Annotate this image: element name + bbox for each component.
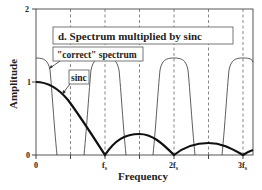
x-tick-label-3fs: 3fs bbox=[238, 161, 248, 171]
y-axis-ticks bbox=[32, 9, 36, 155]
y-axis-title: Amplitude bbox=[7, 59, 19, 109]
y-tick-label-1: 1 bbox=[27, 78, 31, 87]
correct-spectrum-annotation: "correct" spectrum bbox=[49, 47, 143, 69]
correct-spectrum-series bbox=[36, 58, 253, 155]
x-axis-title: Frequency bbox=[118, 170, 168, 182]
sinc-annotation: sinc bbox=[62, 70, 89, 95]
sinc-series bbox=[36, 82, 253, 155]
x-tick-label-fs: fs bbox=[102, 161, 108, 171]
x-axis-ticks bbox=[36, 155, 243, 159]
x-tick-label-2fs: 2fs bbox=[169, 161, 179, 171]
x-tick-label-0: 0 bbox=[34, 161, 38, 170]
y-tick-label-0: 0 bbox=[26, 151, 30, 160]
chart-title: d. Spectrum multiplied by sinc bbox=[58, 30, 202, 42]
y-tick-label-2: 2 bbox=[25, 5, 29, 14]
chart: d. Spectrum multiplied by sinc "correct"… bbox=[0, 0, 262, 190]
sinc-label: sinc bbox=[71, 73, 87, 83]
correct-spectrum-label: "correct" spectrum bbox=[57, 50, 137, 60]
chart-title-box: d. Spectrum multiplied by sinc bbox=[53, 27, 233, 44]
